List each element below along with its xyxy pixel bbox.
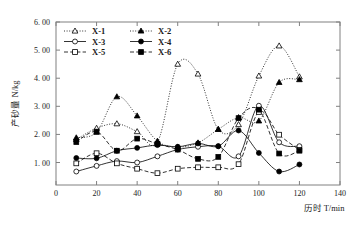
filled-square-marker [175, 147, 180, 152]
data-point-x-3 [94, 163, 99, 168]
filled-circle-marker [94, 156, 99, 161]
y-tick-label: 1. 00 [34, 159, 50, 168]
x-axis-title: 历时 T/min [304, 203, 346, 213]
data-point-x-5 [94, 151, 99, 156]
sand-production-line-chart: 1. 002. 003. 004. 005. 006. 00 020406080… [0, 0, 360, 226]
data-point-x-4 [297, 162, 302, 167]
data-point-x-5 [155, 171, 160, 176]
open-circle-marker [74, 169, 79, 174]
data-point-x-5 [216, 165, 221, 170]
x-tick-label: 60 [174, 189, 182, 198]
data-point-x-5 [175, 166, 180, 171]
filled-circle-marker [196, 141, 201, 146]
filled-square-marker [155, 142, 160, 147]
data-point-x-3 [236, 154, 241, 159]
data-point-x-4 [216, 144, 221, 149]
y-axis-title-group: 产砂量 N/kg [10, 80, 20, 127]
data-point-x-5 [236, 162, 241, 167]
x-tick-label: 140 [334, 189, 346, 198]
legend-label-x-6: X-6 [158, 47, 171, 57]
data-point-x-6 [297, 148, 302, 153]
data-point-x-6 [135, 136, 140, 141]
data-point-x-4 [196, 141, 201, 146]
open-circle-marker [277, 140, 282, 145]
open-square-marker [277, 132, 282, 137]
x-tick-label: 0 [54, 189, 58, 198]
legend-label-x-1: X-1 [92, 26, 105, 36]
data-point-x-6 [74, 140, 79, 145]
filled-square-marker [114, 148, 119, 153]
open-square-marker [73, 50, 78, 55]
open-circle-marker [155, 154, 160, 159]
filled-square-marker [196, 156, 201, 161]
data-point-legend-x-6 [139, 50, 144, 55]
data-point-x-6 [196, 156, 201, 161]
data-point-legend-x-4 [139, 39, 144, 44]
y-tick-label: 4. 00 [34, 74, 50, 83]
filled-circle-marker [135, 145, 140, 150]
filled-circle-marker [277, 169, 282, 174]
filled-circle-marker [236, 128, 241, 133]
data-point-x-6 [94, 129, 99, 134]
filled-square-marker [216, 155, 221, 160]
data-point-x-4 [236, 128, 241, 133]
data-point-x-4 [74, 156, 79, 161]
data-point-x-5 [196, 165, 201, 170]
data-point-x-5 [114, 161, 119, 166]
data-point-x-4 [256, 150, 261, 155]
open-square-marker [155, 171, 160, 176]
filled-circle-marker [216, 144, 221, 149]
x-tick-label: 20 [93, 189, 101, 198]
open-square-marker [196, 165, 201, 170]
data-point-x-6 [114, 148, 119, 153]
data-point-x-6 [175, 147, 180, 152]
filled-circle-marker [256, 150, 261, 155]
open-square-marker [175, 166, 180, 171]
y-axis-title: 产砂量 N/kg [10, 80, 20, 127]
filled-square-marker [139, 50, 144, 55]
filled-square-marker [277, 151, 282, 156]
x-tick-label: 80 [214, 189, 222, 198]
y-tick-label: 2. 00 [34, 130, 50, 139]
data-point-legend-x-3 [73, 39, 78, 44]
y-tick-label: 5. 00 [34, 46, 50, 55]
filled-square-marker [94, 129, 99, 134]
filled-circle-marker [74, 156, 79, 161]
data-point-x-6 [155, 142, 160, 147]
filled-square-marker [135, 136, 140, 141]
open-square-marker [114, 161, 119, 166]
data-point-x-3 [277, 140, 282, 145]
data-point-legend-x-5 [73, 50, 78, 55]
y-tick-label: 6. 00 [34, 18, 50, 27]
x-tick-label: 40 [133, 189, 141, 198]
chart-figure: 1. 002. 003. 004. 005. 006. 00 020406080… [0, 0, 360, 226]
open-square-marker [74, 161, 79, 166]
open-circle-marker [73, 39, 78, 44]
data-point-x-5 [135, 166, 140, 171]
data-point-x-6 [277, 151, 282, 156]
open-square-marker [236, 162, 241, 167]
legend-label-x-3: X-3 [92, 37, 105, 47]
legend-label-x-2: X-2 [158, 26, 171, 36]
data-point-x-5 [277, 132, 282, 137]
data-point-x-4 [277, 169, 282, 174]
open-circle-marker [236, 154, 241, 159]
open-circle-marker [135, 160, 140, 165]
data-point-x-6 [256, 107, 261, 112]
legend-label-x-5: X-5 [92, 47, 105, 57]
x-tick-label: 100 [253, 189, 265, 198]
data-point-x-4 [135, 145, 140, 150]
data-point-x-3 [74, 169, 79, 174]
open-square-marker [216, 165, 221, 170]
legend-label-x-4: X-4 [158, 37, 172, 47]
filled-square-marker [297, 148, 302, 153]
data-point-x-5 [74, 161, 79, 166]
y-tick-label: 3. 00 [34, 102, 50, 111]
open-square-marker [135, 166, 140, 171]
data-point-x-4 [94, 156, 99, 161]
x-tick-label: 120 [293, 189, 305, 198]
open-circle-marker [94, 163, 99, 168]
filled-circle-marker [139, 39, 144, 44]
filled-square-marker [74, 140, 79, 145]
open-square-marker [94, 151, 99, 156]
